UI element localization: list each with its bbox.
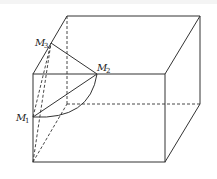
- label-m1: M 1: [15, 112, 29, 125]
- cuboid-diagram: M 3 M 2 M 1: [0, 0, 217, 179]
- hidden-edge-bottom-left-depth: [33, 104, 67, 162]
- svg-text:3: 3: [44, 42, 48, 50]
- segment-m3-m2: [51, 43, 97, 74]
- svg-text:2: 2: [106, 67, 110, 75]
- diagram-svg: M 3 M 2 M 1: [0, 0, 217, 179]
- segment-m1-m2: [33, 74, 97, 117]
- front-face: [33, 74, 165, 162]
- edge-top-right-depth: [165, 16, 200, 74]
- edge-bottom-right-depth: [165, 104, 200, 162]
- segment-m1-m3-hidden: [33, 43, 51, 117]
- label-m2: M 2: [96, 62, 110, 75]
- label-m3: M 3: [34, 37, 48, 50]
- svg-text:1: 1: [25, 117, 29, 125]
- segment-bottom-to-m3-hidden: [33, 43, 51, 162]
